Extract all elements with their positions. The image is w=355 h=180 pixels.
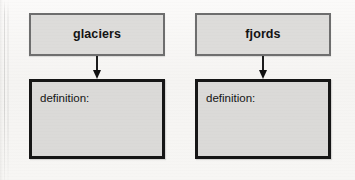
vocabulary-worksheet-diagram: glaciers definition: fjords definition: [0,0,355,180]
arrow-head [259,70,267,79]
down-arrow-icon [259,56,268,79]
term-box-glaciers[interactable]: glaciers [29,13,165,56]
definition-label: definition: [40,93,89,105]
term-column-fjords: fjords definition: [195,0,331,180]
page-gutter-line [4,0,5,180]
term-label: fjords [245,28,280,41]
term-box-fjords[interactable]: fjords [195,13,331,56]
definition-box-fjords[interactable]: definition: [195,79,331,159]
term-column-glaciers: glaciers definition: [29,0,165,180]
page-gutter-shadow [7,0,9,180]
arrow-head [93,70,101,79]
definition-label: definition: [206,93,255,105]
term-label: glaciers [73,28,121,41]
down-arrow-icon [93,56,102,79]
definition-box-glaciers[interactable]: definition: [29,79,165,159]
